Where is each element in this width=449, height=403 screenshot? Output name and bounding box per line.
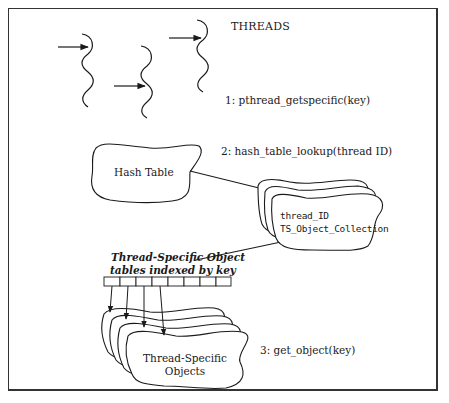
thread-1-icon <box>58 34 93 107</box>
hash-table-label: Hash Table <box>114 167 174 178</box>
objects-label-1: Thread-Specific <box>140 353 230 364</box>
thread-3-icon <box>169 20 208 92</box>
key-table-caption-2: tables indexed by key <box>110 265 236 276</box>
threads-title: THREADS <box>231 21 290 32</box>
step-2-label: 2: hash_table_lookup(thread ID) <box>221 146 392 157</box>
objects-label-2: Objects <box>140 366 230 377</box>
connector-hash-to-collection <box>190 171 259 188</box>
collection-ts-object-label: TS_Object_Collection <box>280 224 388 234</box>
step-3-label: 3: get_object(key) <box>260 345 355 356</box>
diagram-canvas <box>0 0 449 403</box>
key-table-caption-1: Thread-Specific Object <box>111 252 245 263</box>
key-table <box>104 277 231 286</box>
collection-thread-id-label: thread_ID <box>280 211 329 221</box>
thread-2-icon <box>114 46 152 118</box>
step-1-label: 1: pthread_getspecific(key) <box>225 95 370 106</box>
